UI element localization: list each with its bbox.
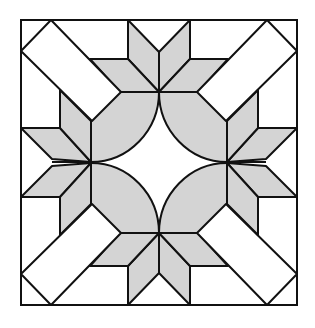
quadrant-top-right [159,20,297,162]
quadrant-bottom-left [21,163,159,305]
quilt-block-svg [0,0,315,328]
quadrant-top-left [21,20,159,162]
quadrant-bottom-right [159,163,297,305]
quilt-block-diagram: Quilt block pattern [0,0,315,328]
